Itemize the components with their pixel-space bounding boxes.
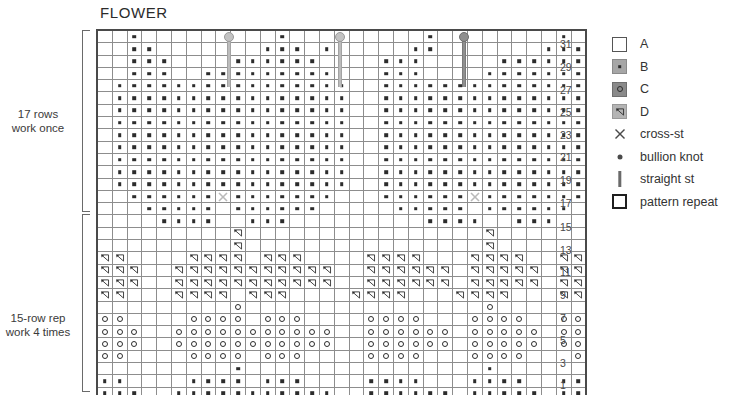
cell-b <box>482 67 497 79</box>
cell-b <box>467 92 482 104</box>
cell-a <box>216 301 231 313</box>
leaf-icon <box>115 254 124 262</box>
ring-icon <box>279 353 285 359</box>
cell-a <box>527 43 542 55</box>
cell-b <box>305 141 320 153</box>
cell-a <box>334 289 349 301</box>
cell-b <box>467 375 482 387</box>
cell-a <box>245 252 260 264</box>
ring-icon <box>413 329 419 335</box>
row-number: 17 <box>560 198 594 209</box>
swatch-c <box>612 82 627 97</box>
cell-b <box>290 55 305 67</box>
cell-b <box>482 178 497 190</box>
leaf-icon <box>411 266 420 274</box>
cell-c <box>231 338 246 350</box>
cell-a <box>127 363 142 375</box>
cell-b <box>290 190 305 202</box>
cell-b <box>467 80 482 92</box>
cell-b <box>231 153 246 165</box>
cell-b <box>201 80 216 92</box>
bullion-knot-icon <box>429 219 433 223</box>
cell-a <box>364 227 379 239</box>
cell-b <box>541 80 556 92</box>
cell-a <box>334 43 349 55</box>
swatch-d <box>612 104 627 119</box>
bullion-knot-icon <box>251 219 255 223</box>
cell-c <box>319 326 334 338</box>
cell-b <box>127 141 142 153</box>
cell-d <box>438 264 453 276</box>
cell-b <box>334 129 349 141</box>
bullion-knot-icon <box>473 146 477 150</box>
chart-row <box>97 363 586 375</box>
chart-legend: ABCDcross-stbullion knotstraight stpatte… <box>612 33 718 213</box>
ring-icon <box>205 329 211 335</box>
cross-st-icon <box>470 192 480 202</box>
bullion-knot-icon <box>133 109 137 113</box>
bullion-knot-icon <box>399 72 403 76</box>
cell-d <box>97 264 112 276</box>
bullion-knot-icon <box>147 84 151 88</box>
cell-b <box>290 166 305 178</box>
cell-b <box>127 43 142 55</box>
cell-d <box>408 252 423 264</box>
cell-b <box>290 141 305 153</box>
cell-c <box>364 326 379 338</box>
cell-b <box>497 387 512 395</box>
cell-b <box>512 190 527 202</box>
cell-d <box>171 276 186 288</box>
cell-c <box>305 338 320 350</box>
bullion-knot-icon <box>266 109 270 113</box>
cell-b <box>438 141 453 153</box>
cell-b <box>423 387 438 395</box>
cell-d <box>112 276 127 288</box>
cell-b <box>157 203 172 215</box>
bullion-knot-icon <box>532 195 536 199</box>
cell-d <box>186 252 201 264</box>
cell-b <box>186 104 201 116</box>
bullion-knot-icon <box>295 182 299 186</box>
bullion-knot-icon <box>443 207 447 211</box>
cell-a <box>260 301 275 313</box>
bullion-knot-icon <box>295 47 299 51</box>
bullion-knot-icon <box>458 96 462 100</box>
bullion-knot-icon <box>488 133 492 137</box>
bullion-knot-icon <box>251 72 255 76</box>
cell-a <box>349 55 364 67</box>
cell-b <box>453 80 468 92</box>
cell-a <box>186 67 201 79</box>
cell-a <box>334 363 349 375</box>
cell-a <box>112 190 127 202</box>
cell-b <box>393 153 408 165</box>
cell-d <box>97 276 112 288</box>
cell-a <box>349 215 364 227</box>
cell-b <box>186 141 201 153</box>
bullion-knot-icon <box>547 72 551 76</box>
leaf-icon <box>308 266 317 274</box>
chart-row <box>97 387 586 395</box>
cell-d <box>467 276 482 288</box>
cell-d <box>497 252 512 264</box>
cell-b <box>231 375 246 387</box>
cell-b <box>334 166 349 178</box>
cell-c <box>364 313 379 325</box>
cell-a <box>171 67 186 79</box>
bullion-knot-icon <box>443 391 447 395</box>
bullion-knot-icon <box>147 182 151 186</box>
cell-c <box>290 313 305 325</box>
cell-b <box>527 67 542 79</box>
cell-c <box>512 338 527 350</box>
cell-d <box>245 276 260 288</box>
cell-a <box>467 301 482 313</box>
cell-b <box>112 178 127 190</box>
ring-icon <box>516 316 522 322</box>
bullion-knot-icon <box>503 182 507 186</box>
cell-c <box>467 313 482 325</box>
ring-icon <box>501 341 507 347</box>
leaf-icon <box>234 242 243 250</box>
cell-a <box>112 30 127 43</box>
cell-c <box>527 326 542 338</box>
cell-b <box>186 178 201 190</box>
cell-c <box>201 350 216 362</box>
